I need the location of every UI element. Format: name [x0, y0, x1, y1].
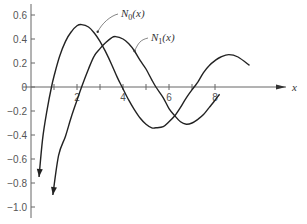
y-tick-label: 0.6: [13, 10, 27, 21]
leader-line: [98, 14, 118, 32]
arrow-down-icon: [51, 187, 57, 195]
y-tick-label: 0.2: [13, 58, 27, 69]
label-n1x: N1(x): [150, 31, 175, 46]
leader-dot: [133, 50, 135, 52]
y-tick-label: −0.8: [7, 178, 27, 189]
x-tick-label: 6: [166, 92, 172, 103]
label-n0x: N0(x): [120, 7, 145, 22]
leader-line: [135, 38, 149, 51]
curve-labels: N0(x)N1(x): [97, 7, 175, 52]
y-tick-label: −0.2: [7, 106, 27, 117]
y-tick-label: −0.4: [7, 130, 27, 141]
curve-n0x: [39, 25, 249, 177]
y-tick-label: 0.4: [13, 34, 27, 45]
curves: [37, 25, 250, 195]
chart: x 0.60.40.20−0.2−0.4−0.6−0.8−1.02468 N0(…: [0, 0, 307, 224]
y-tick-label: −0.6: [7, 154, 27, 165]
x-axis-label: x: [291, 81, 297, 93]
y-tick-label: 0: [21, 82, 27, 93]
leader-dot: [97, 31, 99, 33]
y-tick-label: −1.0: [7, 202, 27, 213]
curve-n1x: [53, 37, 220, 195]
ticks: 0.60.40.20−0.2−0.4−0.6−0.8−1.02468: [7, 10, 218, 213]
x-axis-arrow-icon: [276, 85, 286, 90]
